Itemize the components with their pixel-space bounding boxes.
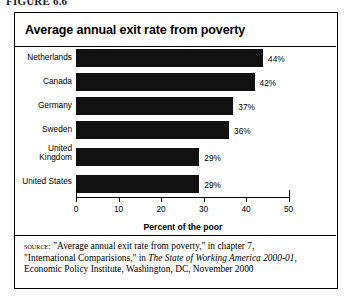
x-tick-label-0: 0: [74, 204, 79, 214]
x-tick-label-50: 50: [284, 204, 293, 214]
x-axis-start-cap: [76, 190, 77, 197]
category-label-united-kingdom: United Kingdom: [39, 144, 72, 162]
bar-netherlands: [76, 49, 263, 67]
x-tick-30: [204, 198, 205, 202]
x-tick-label-40: 40: [241, 204, 250, 214]
chart-title: Average annual exit rate from poverty: [25, 23, 245, 37]
bars-container: 44% 42% 37% 36% 29% 29%: [76, 49, 290, 197]
bar-united-states: [76, 175, 199, 193]
x-tick-label-10: 10: [114, 204, 123, 214]
x-axis-line: [76, 197, 290, 198]
x-tick-0: [76, 198, 77, 202]
category-label-germany: Germany: [38, 101, 72, 110]
bar-canada: [76, 73, 255, 91]
x-tick-label-30: 30: [199, 204, 208, 214]
title-divider: [15, 46, 336, 47]
source-line-2-pre: "International Comparisions," in: [24, 253, 148, 263]
source-line-2-post: ,: [294, 253, 296, 263]
figure-frame: Average annual exit rate from poverty Ne…: [14, 12, 338, 289]
bar-value-sweden: 36%: [234, 126, 251, 136]
x-tick-40: [246, 198, 247, 202]
category-label-canada: Canada: [43, 77, 72, 86]
source-label: source:: [24, 241, 51, 251]
bar-value-united-kingdom: 29%: [204, 153, 221, 163]
bar-value-canada: 42%: [260, 78, 277, 88]
category-label-netherlands: Netherlands: [27, 53, 72, 62]
source-divider: [15, 235, 336, 236]
bar-value-germany: 37%: [238, 102, 255, 112]
source-line-3: Economic Policy Institute, Washington, D…: [24, 264, 254, 274]
bar-united-kingdom: [76, 148, 199, 166]
x-tick-label-20: 20: [156, 204, 165, 214]
category-axis-labels: Netherlands Canada Germany Sweden United…: [15, 49, 76, 197]
source-line-1: "Average annual exit rate from poverty,"…: [51, 241, 254, 251]
x-tick-10: [119, 198, 120, 202]
figure-caption: FIGURE 6.6: [6, 0, 67, 7]
bar-value-netherlands: 44%: [268, 54, 285, 64]
bar-value-united-states: 29%: [204, 180, 221, 190]
source-title-italic: The State of Working America 2000-01: [148, 253, 294, 263]
source-note: source: "Average annual exit rate from p…: [24, 241, 329, 276]
category-label-united-states: United States: [22, 177, 72, 186]
x-tick-20: [161, 198, 162, 202]
x-axis-end-cap: [289, 190, 290, 197]
bar-sweden: [76, 121, 229, 139]
category-label-sweden: Sweden: [42, 125, 72, 134]
plot-area: Netherlands Canada Germany Sweden United…: [15, 49, 336, 249]
x-tick-50: [289, 198, 290, 202]
bar-germany: [76, 97, 233, 115]
x-axis-title: Percent of the poor: [76, 222, 290, 232]
